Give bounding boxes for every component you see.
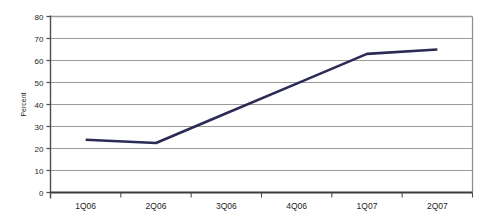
y-axis-ticks: 01020304050607080 — [35, 13, 51, 198]
axes — [51, 16, 473, 199]
y-tick-label-60: 60 — [35, 57, 44, 66]
y-axis-title: Percent — [20, 92, 27, 116]
y-tick-label-70: 70 — [35, 35, 44, 44]
x-axis-label-2Q07: 2Q07 — [427, 201, 448, 211]
x-axis-label-1Q07: 1Q07 — [357, 201, 378, 211]
y-tick-label-0: 0 — [39, 189, 44, 198]
x-axis-label-2Q06: 2Q06 — [146, 201, 167, 211]
y-tick-label-30: 30 — [35, 123, 44, 132]
y-tick-label-50: 50 — [35, 79, 44, 88]
y-tick-label-80: 80 — [35, 13, 44, 22]
chart-canvas: 010203040506070801Q062Q063Q064Q061Q072Q0… — [0, 0, 492, 224]
x-axis-label-4Q06: 4Q06 — [286, 201, 307, 211]
gridlines — [51, 17, 473, 171]
y-tick-label-20: 20 — [35, 145, 44, 154]
y-tick-label-10: 10 — [35, 167, 44, 176]
line-chart: 010203040506070801Q062Q063Q064Q061Q072Q0… — [0, 0, 492, 224]
series-percent — [86, 50, 438, 144]
series-line — [86, 50, 438, 144]
y-tick-label-40: 40 — [35, 101, 44, 110]
x-axis-label-1Q06: 1Q06 — [75, 201, 96, 211]
x-axis-label-3Q06: 3Q06 — [216, 201, 237, 211]
x-axis-labels: 1Q062Q063Q064Q061Q072Q07 — [75, 201, 448, 211]
